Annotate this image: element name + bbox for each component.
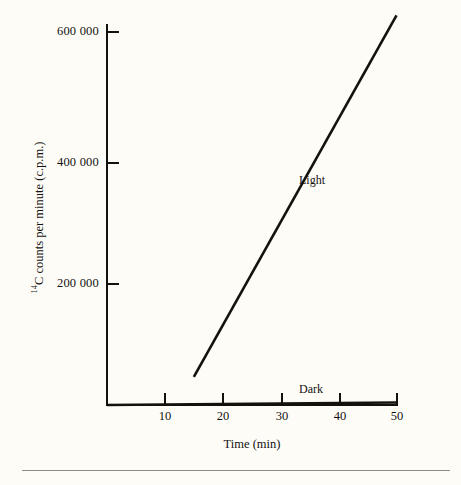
plot-area: [0, 0, 461, 485]
series-line-dark: [107, 403, 397, 405]
figure-container: 600 000 400 000 200 000 10 20 30 40 50 T…: [0, 0, 461, 485]
footer-divider: [22, 470, 450, 471]
series-label-dark: Dark: [299, 383, 323, 395]
series-line-light: [194, 15, 397, 377]
series-label-light: Light: [299, 174, 325, 186]
